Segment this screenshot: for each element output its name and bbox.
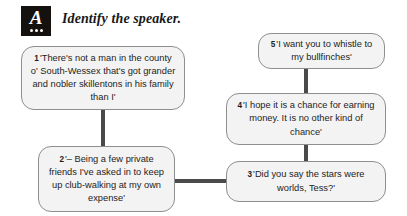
quote-box-1-content: 1'There's not a man in the county o' Sou… [30,52,176,105]
quote-box-1-text: 'There's not a man in the county o' Sout… [31,53,175,103]
quote-box-4-content: 4'I hope it is a chance for earning mone… [235,99,377,139]
connector-box3-box4 [304,144,308,162]
quote-box-5-text: 'I want you to whistle to my bullfinches… [276,39,372,62]
activity-title: Identify the speaker. [62,11,181,27]
worksheet-page: A Identify the speaker. 1'There's not a … [0,0,407,216]
quote-box-5-content: 5'I want you to whistle to my bullfinche… [267,38,376,64]
activity-icon-letter: A [30,9,43,27]
connector-box4-box5 [304,68,308,94]
connector-box2-box3 [174,179,227,183]
quote-box-2-content: 2'– Being a few private friends I've ask… [47,153,166,206]
quote-box-1[interactable]: 1'There's not a man in the county o' Sou… [21,46,185,110]
dot-1 [30,29,33,32]
quote-box-5[interactable]: 5'I want you to whistle to my bullfinche… [258,33,385,69]
quote-box-4-text: 'I hope it is a chance for earning money… [243,100,375,136]
quote-box-3-content: 3'Did you say the stars were worlds, Tes… [235,168,377,194]
activity-icon-a: A [21,6,51,36]
quote-box-3-text: 'Did you say the stars were worlds, Tess… [253,169,364,192]
activity-icon-dots [30,29,43,32]
quote-box-4[interactable]: 4'I hope it is a chance for earning mone… [226,93,386,145]
dot-2 [35,29,38,32]
connector-box1-box2 [101,110,105,147]
quote-box-2[interactable]: 2'– Being a few private friends I've ask… [38,146,175,212]
quote-box-3[interactable]: 3'Did you say the stars were worlds, Tes… [226,161,386,202]
quote-box-2-text: '– Being a few private friends I've aske… [49,154,164,204]
dot-3 [40,29,43,32]
